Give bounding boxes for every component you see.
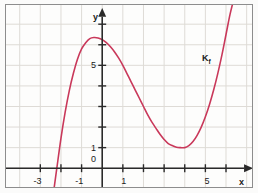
x-tick-label--1: -1 bbox=[75, 176, 83, 186]
function-graph-figure: -3-115150 x y Kf bbox=[0, 0, 258, 193]
axis-layer bbox=[6, 5, 252, 187]
origin-tick-label: 0 bbox=[91, 154, 96, 164]
curve-name-label: Kf bbox=[202, 53, 211, 65]
plot-frame: -3-115150 x y Kf bbox=[5, 4, 253, 188]
y-axis-label: y bbox=[93, 12, 98, 22]
x-axis-label: x bbox=[239, 177, 244, 187]
y-tick-label-1: 1 bbox=[91, 143, 96, 153]
curve-label-subscript: f bbox=[209, 58, 211, 65]
y-tick-label-5: 5 bbox=[91, 60, 96, 70]
x-tick-label--3: -3 bbox=[34, 176, 42, 186]
x-tick-label-1: 1 bbox=[121, 176, 126, 186]
x-tick-label-5: 5 bbox=[205, 176, 210, 186]
